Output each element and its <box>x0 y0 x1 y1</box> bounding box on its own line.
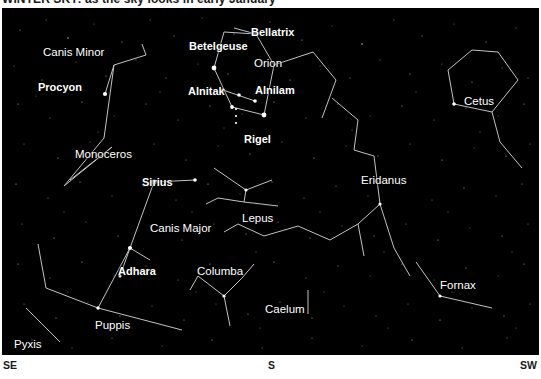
label-sirius: Sirius <box>142 177 173 188</box>
star-rigel <box>262 113 267 118</box>
label-betelgeuse: Betelgeuse <box>189 41 248 52</box>
label-caelum: Caelum <box>265 304 305 316</box>
chart-caption: WINTER SKY: as the sky looks in early Ja… <box>2 0 276 6</box>
label-alnitak: Alnitak <box>188 86 225 97</box>
puppis-lines <box>38 244 182 330</box>
label-rigel: Rigel <box>244 134 271 145</box>
constellation-line-paths <box>26 28 522 342</box>
label-procyon: Procyon <box>38 82 82 93</box>
star-lepus-a <box>244 188 247 191</box>
star-orion-nebula-1 <box>235 108 237 110</box>
pyxis-lines <box>26 308 60 342</box>
label-columba: Columba <box>197 266 243 278</box>
star-betelgeuse <box>212 66 217 71</box>
label-fornax: Fornax <box>440 280 476 292</box>
star-saiph <box>230 105 234 109</box>
label-canis-major: Canis Major <box>150 223 211 235</box>
star-adhara <box>128 246 132 250</box>
label-pyxis: Pyxis <box>14 339 41 351</box>
compass-label-se: SE <box>3 359 17 371</box>
label-cetus: Cetus <box>464 96 494 108</box>
star-procyon <box>103 92 107 96</box>
label-eridanus: Eridanus <box>361 175 406 187</box>
star-orion-nebula-3 <box>235 122 237 124</box>
star-canis-major-east <box>193 178 197 182</box>
star-columba-a <box>222 294 225 297</box>
star-eridanus-a <box>378 202 381 205</box>
label-orion: Orion <box>254 58 282 70</box>
cetus-lines <box>448 50 522 168</box>
lepus-lines <box>206 168 278 206</box>
star-puppis-a <box>96 306 99 309</box>
label-puppis: Puppis <box>95 320 130 332</box>
compass-label-s: S <box>268 359 275 371</box>
sky-panel: Procyon Betelgeuse Bellatrix Alnitak Aln… <box>2 8 539 355</box>
label-lepus: Lepus <box>242 213 273 225</box>
caption-strip: WINTER SKY: as the sky looks in early Ja… <box>0 0 541 8</box>
star-cetus-a <box>452 102 456 106</box>
star-chart-page: WINTER SKY: as the sky looks in early Ja… <box>0 0 541 379</box>
compass-label-sw: SW <box>520 359 537 371</box>
label-canis-minor: Canis Minor <box>43 47 104 59</box>
canis-minor-lines <box>105 65 114 94</box>
star-orion-nebula-2 <box>235 115 237 117</box>
label-adhara: Adhara <box>118 266 156 277</box>
eridanus-lower-lines <box>358 204 410 276</box>
star-fornax-a <box>438 294 441 297</box>
label-monoceros: Monoceros <box>75 149 132 161</box>
compass-bar: SE S SW <box>0 357 541 379</box>
monoceros-lines <box>64 44 146 186</box>
star-alnilam <box>237 93 241 97</box>
label-alnilam: Alnilam <box>255 85 295 96</box>
label-bellatrix: Bellatrix <box>251 27 294 38</box>
star-mintaka <box>253 99 257 103</box>
